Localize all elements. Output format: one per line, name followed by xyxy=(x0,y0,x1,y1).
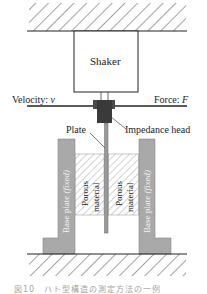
base-plate-left-label: Base plate (fixed) xyxy=(61,170,71,233)
velocity-symbol: v xyxy=(51,94,55,105)
plate-rod xyxy=(105,123,109,233)
velocity-text: Velocity: xyxy=(12,94,51,105)
shaker-text: Shaker xyxy=(90,55,121,67)
force-symbol: F xyxy=(182,94,188,105)
stinger xyxy=(101,92,108,100)
force-label: Force: F xyxy=(154,94,188,105)
impedance-head-text: Impedance head xyxy=(125,124,190,135)
base-plate-right-fixed-text: (fixed) xyxy=(142,170,152,193)
porous-right-label-1: Porous xyxy=(114,181,124,206)
plate-label: Plate xyxy=(66,124,86,135)
base-plate-left-text: Base plate xyxy=(61,194,71,234)
porous-left-text-1: Porous xyxy=(80,181,90,206)
plate-text: Plate xyxy=(66,124,86,135)
impedance-head-leader-line xyxy=(111,117,126,129)
impedance-head-label: Impedance head xyxy=(125,124,190,135)
porous-right-label-2: material xyxy=(125,183,135,212)
base-plate-right-label: Base plate (fixed) xyxy=(142,170,152,233)
ground-support xyxy=(27,254,187,276)
shaker-label: Shaker xyxy=(90,56,121,67)
porous-right-text-1: Porous xyxy=(114,181,124,206)
porous-left-label-1: Porous xyxy=(80,181,90,206)
figure-caption: 図10 ハト型構造の測定方法の一例 xyxy=(14,283,161,294)
ceiling-support xyxy=(27,3,187,31)
velocity-label: Velocity: v xyxy=(12,94,55,105)
base-plate-right-text: Base plate xyxy=(142,194,152,234)
plate-leader-line xyxy=(90,133,105,148)
impedance-head xyxy=(93,100,115,123)
porous-right-text-2: material xyxy=(125,183,135,212)
porous-left-text-2: material xyxy=(91,183,101,212)
base-plate-left-fixed-text: (fixed) xyxy=(61,170,71,193)
porous-left-label-2: material xyxy=(91,183,101,212)
force-text: Force: xyxy=(154,94,182,105)
